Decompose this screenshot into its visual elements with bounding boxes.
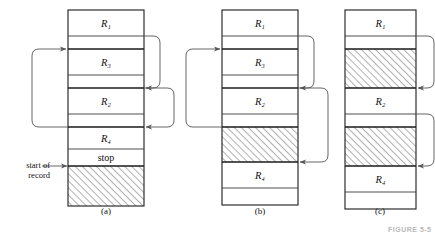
- b-row-r4-label: R₄: [254, 170, 265, 181]
- start-of-record-label: start of record: [6, 160, 50, 180]
- pointer-arrow-right-c2: [416, 114, 434, 166]
- c-row-free-space-1-fill: [345, 49, 416, 88]
- pointer-arrow-left-a1: [32, 49, 68, 127]
- a-row-free-space-fill: [68, 166, 144, 206]
- c-row-free-space-2-fill: [345, 127, 416, 166]
- pointer-arrow-left-b1: [186, 49, 222, 127]
- panel-caption-a: (a): [86, 206, 126, 216]
- start-of-record-line1: start of: [6, 160, 50, 170]
- memory-block-diagram: R₁R₃R₂R₄stopR₁R₃R₂R₄R₁R₂R₄: [0, 0, 435, 236]
- pointer-arrow-right-c1: [416, 36, 434, 88]
- c-row-r1-label: R₁: [374, 18, 385, 29]
- pointer-arrow-right-b2: [298, 88, 328, 162]
- figure-canvas: R₁R₃R₂R₄stopR₁R₃R₂R₄R₁R₂R₄ start of reco…: [0, 0, 435, 236]
- a-row-r2-label: R₂: [100, 96, 111, 107]
- b-row-r1-label: R₁: [254, 18, 265, 29]
- figure-number-caption: FIGURE 5-5: [388, 226, 432, 233]
- pointer-arrow-right-a2: [144, 88, 174, 127]
- b-row-free-space-fill: [222, 127, 298, 162]
- b-row-r2-label: R₂: [254, 96, 265, 107]
- panel-a: [68, 10, 144, 206]
- panel-caption-c: (c): [360, 206, 400, 216]
- c-row-r4-label: R₄: [374, 174, 385, 185]
- panel-caption-b: (b): [240, 206, 280, 216]
- c-row-r2-label: R₂: [374, 96, 385, 107]
- pointer-arrow-right-a1: [144, 36, 160, 88]
- a-row-r3-label: R₃: [100, 57, 111, 68]
- b-row-r3-label: R₃: [254, 57, 265, 68]
- a-row-r4-label: R₄: [100, 133, 111, 144]
- pointer-arrow-right-b1: [298, 36, 314, 88]
- a-row-stop-label: stop: [98, 152, 115, 163]
- panels-layer: [68, 10, 416, 209]
- start-of-record-line2: record: [6, 170, 50, 180]
- a-row-r1-label: R₁: [100, 18, 111, 29]
